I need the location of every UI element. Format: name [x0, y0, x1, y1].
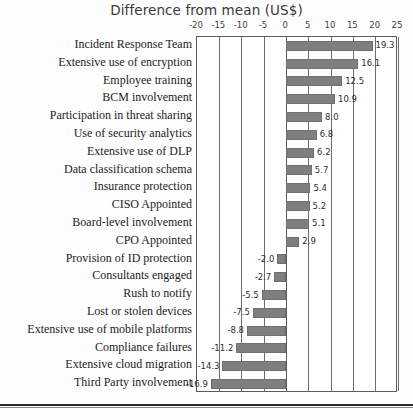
- category-label: Board-level involvement: [72, 214, 192, 232]
- bar-row: -5.5: [197, 286, 396, 304]
- bar-value-label: 6.2: [317, 146, 331, 159]
- y-axis-category-labels: Incident Response TeamExtensive use of e…: [0, 36, 194, 392]
- bar-value-label: 2.9: [302, 235, 316, 248]
- bar-value-label: 5.2: [313, 200, 327, 213]
- category-label: Lost or stolen devices: [87, 303, 192, 321]
- x-tick-label: -20: [189, 20, 203, 30]
- category-label: Data classification schema: [64, 161, 192, 179]
- x-tick-label: 0: [283, 20, 288, 30]
- bar-row: 6.8: [197, 126, 396, 144]
- bar-row: 6.2: [197, 144, 396, 162]
- bar-row: 8.0: [197, 108, 396, 126]
- bar-value-label: -2.7: [255, 271, 272, 284]
- bar: [286, 148, 314, 158]
- x-tick-label: 10: [325, 20, 336, 30]
- category-label: Extensive use of mobile platforms: [27, 321, 192, 339]
- category-label: Provision of ID protection: [66, 250, 192, 268]
- category-label: Extensive cloud migration: [65, 356, 192, 374]
- bar: [222, 361, 286, 371]
- bar-value-label: -2.0: [258, 253, 275, 266]
- bar: [286, 165, 311, 175]
- bar-row: -8.8: [197, 322, 396, 340]
- bar: [236, 343, 286, 353]
- bar-value-label: -14.3: [197, 360, 219, 373]
- bar-row: -16.9: [197, 375, 396, 393]
- bar: [253, 308, 287, 318]
- bar-row: -2.7: [197, 268, 396, 286]
- bar-row: 2.9: [197, 233, 396, 251]
- bar: [286, 183, 310, 193]
- bar-value-label: 5.7: [315, 164, 329, 177]
- x-tick-label: -5: [259, 20, 267, 30]
- bar-value-label: -5.5: [242, 289, 259, 302]
- bar-row: 10.9: [197, 90, 396, 108]
- bar-row: 5.1: [197, 215, 396, 233]
- bar: [247, 326, 286, 336]
- category-label: Incident Response Team: [74, 36, 192, 54]
- bar-row: 5.7: [197, 162, 396, 180]
- x-tick-label: -10: [234, 20, 248, 30]
- x-tick-label: 20: [369, 20, 380, 30]
- category-label: Compliance failures: [95, 339, 192, 357]
- x-tick-label: -15: [211, 20, 225, 30]
- bar-rows: 19.316.112.510.98.06.86.25.75.45.25.12.9…: [197, 37, 396, 391]
- bar: [262, 290, 287, 300]
- bar-value-label: 8.0: [325, 111, 339, 124]
- bar-value-label: -16.9: [186, 378, 208, 391]
- x-axis-tick-labels: -20-15-10-50510152025: [196, 20, 397, 34]
- bar-row: 19.3: [197, 37, 396, 55]
- bar-value-label: 5.1: [312, 217, 326, 230]
- x-tick-label: 25: [392, 20, 403, 30]
- category-label: Rush to notify: [123, 285, 192, 303]
- x-tick-label: 5: [305, 20, 310, 30]
- bar: [286, 41, 372, 51]
- category-label: BCM involvement: [102, 89, 192, 107]
- bar: [286, 219, 309, 229]
- category-label: Consultants engaged: [92, 267, 192, 285]
- bar-row: 12.5: [197, 73, 396, 91]
- bottom-divider-secondary: [0, 407, 413, 408]
- bar-value-label: -8.8: [227, 324, 244, 337]
- gridline: [398, 37, 399, 391]
- bar-value-label: -7.5: [233, 306, 250, 319]
- bar-value-label: 6.8: [320, 128, 334, 141]
- category-label: Extensive use of DLP: [87, 143, 192, 161]
- bar: [286, 59, 358, 69]
- bar-row: 5.2: [197, 197, 396, 215]
- bar-value-label: 5.4: [313, 182, 327, 195]
- category-label: Participation in threat sharing: [50, 107, 192, 125]
- bar: [277, 254, 286, 264]
- bar-value-label: 10.9: [338, 93, 357, 106]
- bar-value-label: 16.1: [361, 57, 380, 70]
- category-label: Use of security analytics: [74, 125, 192, 143]
- category-label: CPO Appointed: [116, 232, 192, 250]
- category-label: Employee training: [103, 72, 192, 90]
- bar-value-label: -11.2: [211, 342, 233, 355]
- x-tick-label: 15: [347, 20, 358, 30]
- bar-chart: Difference from mean (US$) -20-15-10-505…: [0, 0, 413, 420]
- plot-area: 19.316.112.510.98.06.86.25.75.45.25.12.9…: [196, 36, 397, 392]
- bar: [286, 94, 335, 104]
- bar-row: 5.4: [197, 179, 396, 197]
- bar-row: -2.0: [197, 251, 396, 269]
- category-label: Extensive use of encryption: [58, 54, 192, 72]
- bar-value-label: 12.5: [345, 75, 364, 88]
- category-label: Insurance protection: [94, 178, 192, 196]
- bar-value-label: 19.3: [376, 39, 395, 52]
- bar: [274, 272, 286, 282]
- bar: [286, 130, 316, 140]
- bar-row: -11.2: [197, 340, 396, 358]
- bar: [286, 76, 342, 86]
- bar-row: -14.3: [197, 357, 396, 375]
- category-label: Third Party involvement: [74, 374, 192, 392]
- bottom-divider: [0, 404, 413, 406]
- bar: [286, 201, 309, 211]
- bar: [286, 237, 299, 247]
- bar: [286, 112, 322, 122]
- category-label: CISO Appointed: [112, 196, 192, 214]
- chart-title: Difference from mean (US$): [0, 2, 413, 18]
- bar: [211, 379, 286, 389]
- bar-row: -7.5: [197, 304, 396, 322]
- bar-row: 16.1: [197, 55, 396, 73]
